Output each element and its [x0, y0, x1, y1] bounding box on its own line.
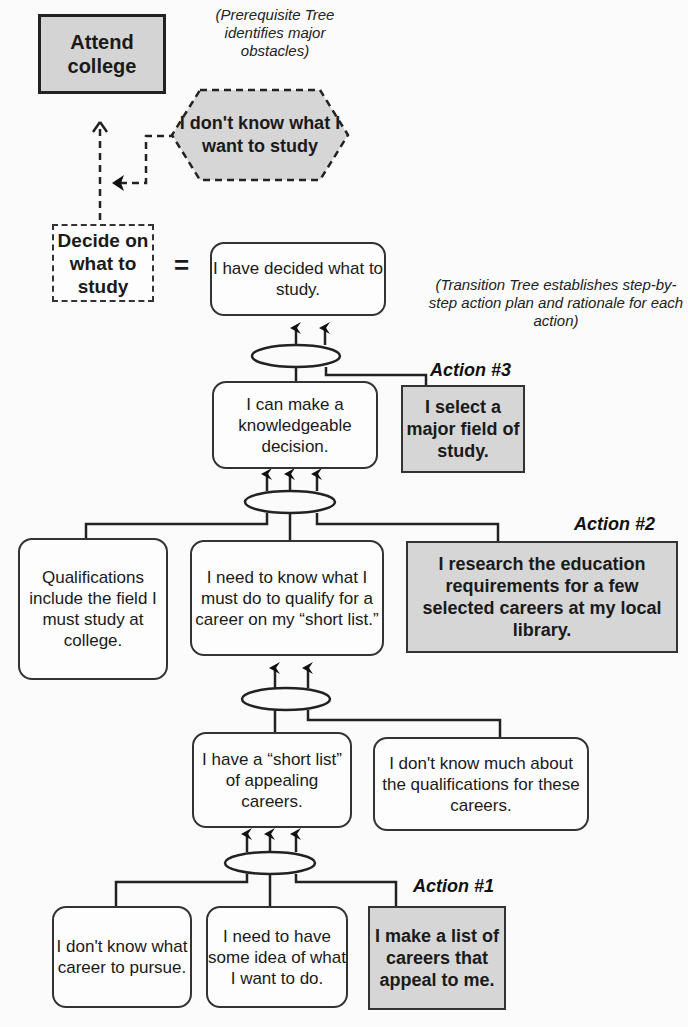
action-3-box: I select a major field of study. — [401, 385, 525, 473]
action-1-box: I make a list of careers that appeal to … — [368, 906, 506, 1010]
node-short-list: I have a “short list” of appealing caree… — [192, 732, 352, 828]
node-dont-know-career: I don't know what career to pursue. — [52, 906, 192, 1008]
action-1-label: Action #1 — [413, 876, 494, 897]
goal-attend-college: Attend college — [38, 14, 166, 94]
obstacle-text: I don't know what I want to study — [170, 88, 350, 182]
equals-sign: = — [174, 250, 189, 281]
transition-tree-note: (Transition Tree establishes step-by-ste… — [425, 276, 687, 330]
action-2-label: Action #2 — [574, 514, 655, 535]
node-qualifications-include: Qualifications include the field I must … — [18, 538, 168, 680]
action-3-label: Action #3 — [430, 360, 511, 381]
node-need-to-know: I need to know what I must do to qualify… — [190, 540, 384, 656]
action-2-box: I research the education requirements fo… — [406, 541, 678, 653]
obstacle-hexagon: I don't know what I want to study — [170, 88, 350, 182]
prerequisite-tree-note: (Prerequisite Tree identifies major obst… — [200, 6, 350, 60]
node-need-idea: I need to have some idea of what I want … — [206, 906, 348, 1008]
node-decided: I have decided what to study. — [210, 242, 386, 316]
intermediate-objective-decide: Decide on what to study — [52, 224, 154, 302]
node-dont-know-much: I don't know much about the qualificatio… — [373, 737, 589, 831]
node-knowledgeable: I can make a knowledgeable decision. — [212, 381, 378, 469]
